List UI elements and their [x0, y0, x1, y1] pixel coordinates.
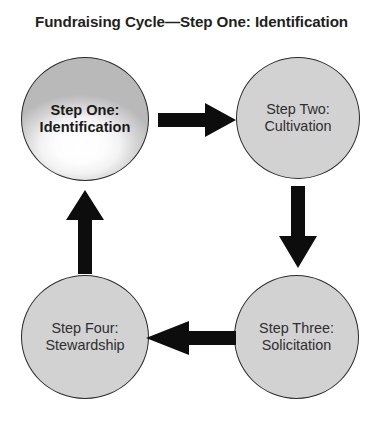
node-step-three-label: Step Three: Solicitation — [253, 320, 340, 353]
node-step-two-label: Step Two: Cultivation — [258, 101, 337, 134]
node-step-one-line1: Step One: — [40, 102, 131, 119]
arrow-down-icon — [278, 186, 318, 268]
arrow-left-icon — [146, 319, 236, 357]
node-step-one-line2: Identification — [40, 119, 131, 136]
page-title: Fundraising Cycle—Step One: Identificati… — [0, 13, 383, 30]
arrow-up-icon — [65, 190, 105, 274]
node-step-one-label: Step One: Identification — [34, 102, 137, 136]
node-step-three-line1: Step Three: — [259, 320, 334, 337]
node-step-two-line2: Cultivation — [264, 118, 331, 135]
node-step-two[interactable]: Step Two: Cultivation — [236, 57, 360, 179]
node-step-two-line1: Step Two: — [264, 101, 331, 118]
node-step-three[interactable]: Step Three: Solicitation — [234, 275, 359, 399]
node-step-four[interactable]: Step Four: Stewardship — [21, 275, 149, 399]
diagram-canvas: Fundraising Cycle—Step One: Identificati… — [0, 0, 383, 423]
node-step-three-line2: Solicitation — [259, 337, 334, 354]
node-step-four-line2: Stewardship — [45, 337, 124, 354]
node-step-one[interactable]: Step One: Identification — [21, 57, 149, 181]
node-step-four-line1: Step Four: — [45, 320, 124, 337]
arrow-right-icon — [158, 101, 236, 139]
node-step-four-label: Step Four: Stewardship — [39, 320, 130, 353]
